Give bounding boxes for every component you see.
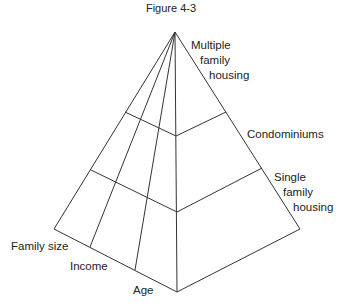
- base-right: [177, 229, 300, 292]
- label-line: housing: [274, 200, 333, 215]
- dimension-label-age: Age: [133, 283, 153, 298]
- label-line: Multiple: [191, 38, 249, 53]
- pyramid-diagram: [0, 0, 342, 308]
- dimension-label-income: Income: [70, 259, 108, 274]
- pyramid-front-edge: [175, 32, 177, 292]
- divider-family-size-income: [90, 32, 175, 247]
- pyramid-left-edge: [54, 32, 175, 229]
- label-line: Single: [274, 170, 333, 185]
- level-label-multiple: Multiple family housing: [191, 38, 249, 83]
- label-line: family: [274, 185, 333, 200]
- level-label-single: Single family housing: [274, 170, 333, 215]
- divider-income-age: [135, 32, 175, 270]
- level-label-condominiums: Condominiums: [247, 127, 324, 142]
- dimension-label-family-size: Family size: [11, 239, 69, 254]
- label-line: family: [191, 53, 249, 68]
- label-line: housing: [191, 68, 249, 83]
